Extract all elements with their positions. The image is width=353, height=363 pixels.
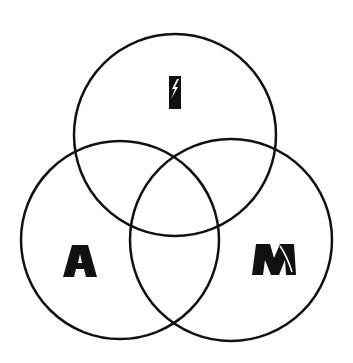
background	[0, 0, 353, 363]
venn-diagram: I A M	[0, 0, 353, 363]
label-top-i: I	[169, 76, 181, 109]
i-letter-block	[169, 76, 181, 109]
